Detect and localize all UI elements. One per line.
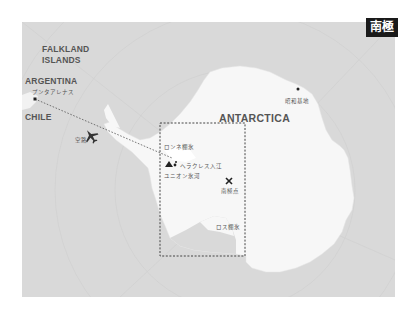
label-airplane: 空路 <box>75 136 87 144</box>
square-dot-icon <box>297 88 300 91</box>
label-showa-base: 昭和基地 <box>285 97 309 105</box>
label-south-pole: 南極点 <box>221 187 239 195</box>
label-union-glacier: ユニオン氷河 <box>164 172 200 180</box>
label-falkland-line2: ISLANDS <box>42 55 81 65</box>
label-hercules-inlet: ヘラクレス入江 <box>180 162 222 170</box>
title-badge: 南極 <box>366 18 398 37</box>
label-ronne-ice-shelf: ロンネ棚氷 <box>164 143 194 151</box>
square-dot-icon <box>34 98 37 101</box>
label-falkland-line1: FALKLAND <box>42 44 89 54</box>
label-ross-ice-shelf: ロス棚氷 <box>216 223 240 231</box>
label-punta-arenas: プンタアレナス <box>32 88 74 96</box>
label-chile: CHILE <box>25 112 52 122</box>
label-antarctica: ANTARCTICA <box>219 112 290 124</box>
label-argentina: ARGENTINA <box>25 76 77 86</box>
